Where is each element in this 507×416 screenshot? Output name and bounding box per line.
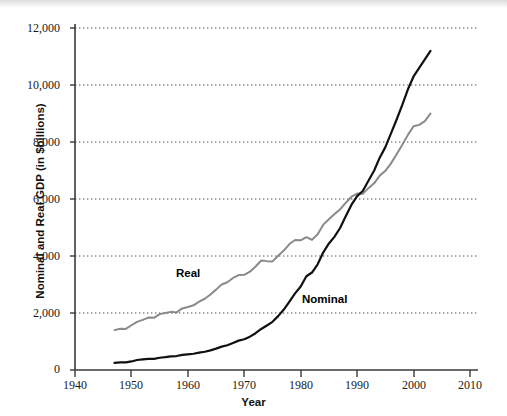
xtick-label-1960: 1960 [165, 378, 211, 393]
ytick-label-0: 0 [8, 362, 60, 377]
xtick-label-1970: 1970 [221, 378, 267, 393]
series-label-nominal: Nominal [302, 293, 347, 305]
xtick-label-2010: 2010 [447, 378, 493, 393]
y-axis-title: Nominal and Real GDP (in $billions) [34, 76, 46, 326]
xtick-label-2000: 2000 [391, 378, 437, 393]
gdp-line-chart-figure: 12,000 10,000 8,000 6,000 4,000 2,000 0 … [0, 0, 507, 416]
x-axis-title: Year [0, 396, 507, 408]
ytick-label-12000: 12,000 [8, 21, 60, 36]
chart-plot-svg [0, 0, 507, 416]
xtick-label-1990: 1990 [334, 378, 380, 393]
series-line-real [115, 114, 431, 331]
series-label-real: Real [176, 267, 200, 279]
xtick-label-1980: 1980 [278, 378, 324, 393]
xtick-label-1950: 1950 [108, 378, 154, 393]
xtick-label-1940: 1940 [52, 378, 98, 393]
x-tick-marks [75, 370, 470, 377]
series-line-nominal [115, 51, 431, 363]
